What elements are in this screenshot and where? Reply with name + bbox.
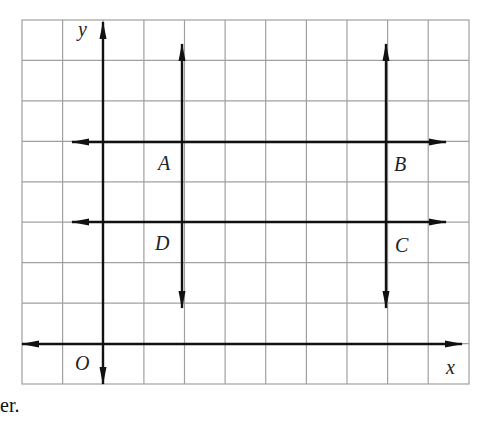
- point-label-c: C: [395, 234, 409, 256]
- point-label-b: B: [394, 153, 406, 175]
- grid-border: [22, 20, 469, 384]
- origin-label: O: [75, 352, 89, 374]
- y-axis-label: y: [76, 18, 87, 41]
- grid: [22, 20, 469, 384]
- caption-fragment: er.: [0, 394, 19, 417]
- x-axis-label: x: [445, 356, 455, 378]
- point-label-a: A: [156, 152, 171, 174]
- coordinate-grid-figure: y A B C D O x: [0, 0, 482, 422]
- point-label-d: D: [154, 232, 170, 254]
